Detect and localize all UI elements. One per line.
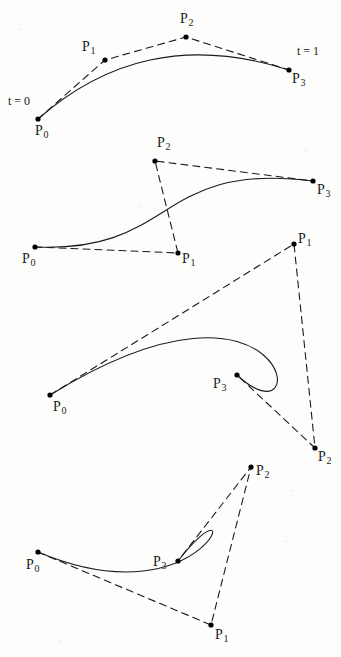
bezier-path-4 — [38, 530, 213, 572]
control-point-4-p3 — [175, 558, 180, 563]
scan-speck — [95, 420, 97, 422]
point-label-2-p1: P1 — [182, 252, 196, 268]
point-label-base: P — [153, 554, 161, 569]
point-label-3-p3: P3 — [213, 377, 227, 393]
control-point-4-p0 — [35, 549, 40, 554]
point-label-2-p2: P2 — [157, 136, 171, 152]
point-label-1-p3: P3 — [292, 72, 306, 88]
bezier-figure-page: t = 0 t = 1 P0 P1 P2 P3 P0 P1 P2 P3 P0 P… — [0, 0, 341, 657]
point-label-base: P — [82, 39, 90, 54]
control-point-1-p3 — [286, 67, 291, 72]
scan-speck — [124, 295, 126, 297]
point-label-subscript: 0 — [34, 563, 39, 574]
bezier-curve-4-group — [35, 464, 253, 627]
point-label-subscript: 2 — [326, 455, 331, 466]
control-point-1-p2 — [183, 34, 188, 39]
bezier-curve-3-group — [47, 241, 317, 450]
control-polygon-2 — [35, 161, 313, 253]
scan-speck — [60, 640, 62, 642]
point-label-subscript: 3 — [300, 77, 305, 88]
point-label-1-p0: P0 — [35, 124, 49, 140]
point-label-subscript: 2 — [264, 469, 269, 480]
control-point-3-p0 — [47, 392, 52, 397]
point-label-subscript: 0 — [30, 257, 35, 268]
point-label-subscript: 1 — [306, 237, 311, 248]
scan-speck — [290, 490, 292, 492]
point-label-4-p2: P2 — [256, 464, 270, 480]
point-label-base: P — [35, 123, 43, 138]
point-label-subscript: 1 — [90, 45, 95, 56]
point-label-base: P — [318, 449, 326, 464]
control-point-4-p2 — [248, 464, 253, 469]
point-label-base: P — [317, 182, 325, 197]
point-label-subscript: 1 — [223, 633, 228, 644]
control-point-4-p1 — [208, 622, 213, 627]
bezier-curve-2-group — [32, 158, 315, 255]
point-label-base: P — [292, 71, 300, 86]
point-label-4-p0: P0 — [26, 558, 40, 574]
point-label-base: P — [298, 231, 306, 246]
point-label-4-p1: P1 — [215, 628, 229, 644]
control-point-1-p1 — [102, 57, 107, 62]
point-label-3-p1: P1 — [298, 232, 312, 248]
control-point-3-p1 — [291, 241, 296, 246]
scan-speck — [20, 28, 22, 30]
bezier-curve-1-group — [35, 34, 291, 121]
point-label-base: P — [53, 399, 61, 414]
point-label-1-p1: P1 — [82, 40, 96, 56]
point-label-base: P — [213, 376, 221, 391]
t-start-label-1: t = 0 — [8, 95, 30, 107]
point-label-subscript: 3 — [161, 560, 166, 571]
point-label-base: P — [256, 463, 264, 478]
control-polygon-3 — [50, 244, 315, 448]
control-point-2-p0 — [32, 244, 37, 249]
control-point-2-p1 — [175, 250, 180, 255]
point-label-base: P — [215, 627, 223, 642]
control-polygon-1 — [38, 37, 289, 119]
point-label-subscript: 2 — [165, 141, 170, 152]
point-label-1-p2: P2 — [180, 12, 194, 28]
control-point-2-p2 — [152, 158, 157, 163]
bezier-path-3 — [50, 338, 277, 395]
point-label-base: P — [180, 11, 188, 26]
control-point-1-p0 — [35, 116, 40, 121]
control-point-2-p3 — [310, 178, 315, 183]
point-label-base: P — [26, 557, 34, 572]
bezier-figure-svg — [0, 0, 341, 657]
scan-speck — [140, 205, 142, 207]
point-label-2-p0: P0 — [22, 252, 36, 268]
point-label-3-p2: P2 — [318, 450, 332, 466]
point-label-subscript: 0 — [43, 129, 48, 140]
point-label-base: P — [182, 251, 190, 266]
point-label-base: P — [22, 251, 30, 266]
bezier-path-1 — [38, 55, 289, 119]
point-label-subscript: 2 — [188, 17, 193, 28]
point-label-subscript: 1 — [190, 257, 195, 268]
scan-speck — [285, 540, 287, 542]
point-label-subscript: 3 — [325, 188, 330, 199]
scan-speck — [305, 150, 307, 152]
control-point-3-p2 — [312, 445, 317, 450]
point-label-base: P — [157, 135, 165, 150]
control-polygon-4 — [38, 467, 251, 625]
point-label-3-p0: P0 — [53, 400, 67, 416]
point-label-subscript: 0 — [61, 405, 66, 416]
point-label-4-p3: P3 — [153, 555, 167, 571]
point-label-subscript: 3 — [221, 382, 226, 393]
point-label-2-p3: P3 — [317, 183, 331, 199]
t-end-label-1: t = 1 — [297, 45, 319, 57]
control-point-3-p3 — [234, 372, 239, 377]
